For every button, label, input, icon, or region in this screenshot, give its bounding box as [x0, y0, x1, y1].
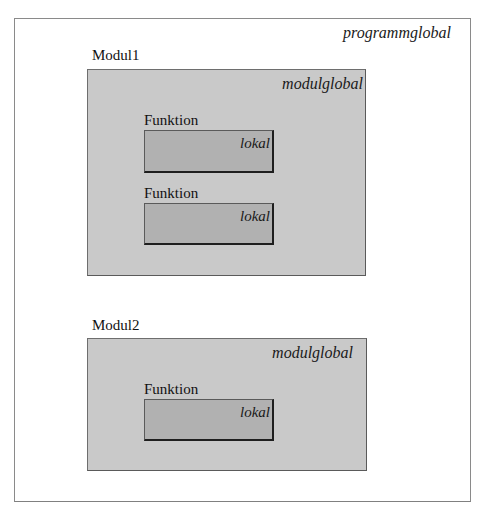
program-scope-label: programmglobal: [343, 25, 451, 41]
module1-function1-scope-label: lokal: [240, 135, 270, 151]
module1-function2-scope-label: lokal: [240, 208, 270, 224]
module2-label: Modul2: [92, 318, 140, 333]
module1-function1-box: lokal: [144, 130, 274, 173]
module1-function2-box: lokal: [144, 203, 274, 245]
module2-function1-label: Funktion: [144, 382, 198, 397]
module2-scope-label: modulglobal: [272, 345, 353, 361]
module1-function1-label: Funktion: [144, 113, 198, 128]
module1-scope-label: modulglobal: [282, 76, 363, 92]
module2-function1-scope-label: lokal: [240, 404, 270, 420]
module1-function2-label: Funktion: [144, 186, 198, 201]
module1-label: Modul1: [92, 48, 140, 63]
module2-function1-box: lokal: [144, 399, 274, 441]
